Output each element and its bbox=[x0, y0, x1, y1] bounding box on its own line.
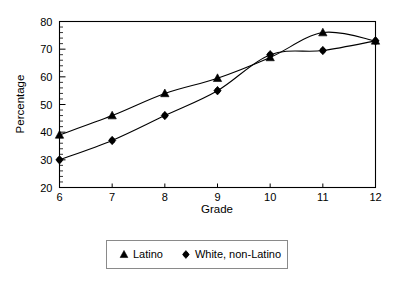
x-axis-tick-labels: 6789101112 bbox=[56, 191, 381, 203]
x-axis-ticks bbox=[60, 184, 376, 188]
data-point-latino-7 bbox=[108, 111, 116, 119]
chart-figure: 20304050607080 6789101112 Grade Percenta… bbox=[0, 0, 394, 283]
chart-canvas: 20304050607080 6789101112 Grade Percenta… bbox=[0, 0, 394, 283]
x-tick-label: 8 bbox=[162, 191, 168, 203]
y-tick-label: 40 bbox=[40, 126, 52, 138]
data-point-white-non-latino-11 bbox=[319, 46, 326, 55]
y-tick-label: 30 bbox=[40, 154, 52, 166]
x-tick-label: 12 bbox=[369, 191, 381, 203]
x-tick-label: 7 bbox=[109, 191, 115, 203]
marker-diamond-core bbox=[57, 157, 62, 162]
legend-entries: LatinoWhite, non-Latino bbox=[120, 248, 281, 260]
marker-diamond-core bbox=[215, 88, 220, 93]
data-point-white-non-latino-8 bbox=[161, 111, 168, 120]
x-tick-label: 10 bbox=[264, 191, 276, 203]
marker-diamond-core bbox=[162, 113, 167, 118]
data-point-white-non-latino-7 bbox=[109, 136, 116, 145]
y-axis-tick-labels: 20304050607080 bbox=[40, 16, 52, 194]
y-tick-label: 70 bbox=[40, 43, 52, 55]
y-tick-label: 80 bbox=[40, 16, 52, 28]
x-tick-label: 9 bbox=[214, 191, 220, 203]
y-tick-label: 60 bbox=[40, 71, 52, 83]
triangle-icon bbox=[120, 250, 128, 257]
series-line-2 bbox=[60, 41, 376, 160]
plot-area-frame bbox=[60, 22, 376, 188]
marker-diamond-core bbox=[110, 138, 115, 143]
marker-diamond-core bbox=[183, 252, 188, 257]
data-point-white-non-latino-9 bbox=[214, 86, 221, 95]
legend-label-1: Latino bbox=[133, 248, 163, 260]
marker-diamond-core bbox=[320, 48, 325, 53]
x-axis-title: Grade bbox=[201, 203, 233, 215]
marker-diamond-core bbox=[373, 38, 378, 43]
x-tick-label: 6 bbox=[56, 191, 62, 203]
data-point-white-non-latino-6 bbox=[56, 156, 63, 165]
series-lines bbox=[60, 32, 376, 160]
diamond-icon bbox=[183, 251, 190, 259]
series-line-1 bbox=[60, 32, 376, 135]
y-tick-label: 20 bbox=[40, 182, 52, 194]
marker-diamond-core bbox=[268, 52, 273, 57]
chart-legend: LatinoWhite, non-Latino bbox=[107, 241, 288, 269]
y-axis-title: Percentage bbox=[14, 75, 26, 134]
legend-label-2: White, non-Latino bbox=[195, 248, 281, 260]
y-tick-label: 50 bbox=[40, 99, 52, 111]
x-tick-label: 11 bbox=[317, 191, 328, 203]
